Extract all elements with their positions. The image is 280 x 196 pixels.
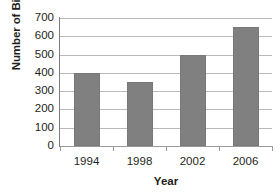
y-axis-tick-label: 400	[20, 67, 54, 78]
x-axis-tick	[60, 146, 61, 151]
bar-slot	[219, 18, 272, 146]
y-axis-tick-label: 600	[20, 30, 54, 41]
x-axis-tick-label: 2002	[166, 153, 219, 169]
plot-area	[60, 18, 272, 146]
bar-slot	[166, 18, 219, 146]
x-axis-tick-label: 1998	[113, 153, 166, 169]
y-axis-tick-label: 700	[20, 12, 54, 23]
y-axis-tick-label: 500	[20, 49, 54, 60]
x-axis-tick	[113, 146, 114, 151]
bar-chart: Number of Birds 0100200300400500600700 1…	[0, 0, 280, 196]
y-axis-tick-labels: 0100200300400500600700	[20, 12, 54, 146]
y-axis-tick-label: 300	[20, 85, 54, 96]
bar-slot	[113, 18, 166, 146]
x-axis-title: Year	[60, 174, 272, 188]
bars-layer	[60, 18, 272, 146]
y-axis-tick-label: 100	[20, 122, 54, 133]
bar-slot	[60, 18, 113, 146]
y-axis-tick-label: 200	[20, 103, 54, 114]
y-axis-tick-label: 0	[20, 140, 54, 151]
x-axis-tick-label: 2006	[219, 153, 272, 169]
x-axis-ticks	[60, 146, 272, 151]
x-axis-tick	[166, 146, 167, 151]
bar-2002[interactable]	[180, 55, 206, 146]
x-axis-tick-labels: 1994199820022006	[60, 153, 272, 169]
bar-1994[interactable]	[74, 73, 100, 146]
x-axis-tick-label: 1994	[60, 153, 113, 169]
x-axis-tick	[219, 146, 220, 151]
x-axis-tick	[272, 146, 273, 151]
bar-1998[interactable]	[127, 82, 153, 146]
bar-2006[interactable]	[233, 27, 259, 146]
